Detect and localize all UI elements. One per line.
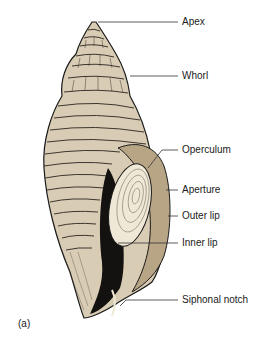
shell-illustration xyxy=(44,22,170,318)
label-whorl: Whorl xyxy=(182,70,208,82)
label-operculum: Operculum xyxy=(182,144,231,156)
label-outer-lip: Outer lip xyxy=(182,210,220,222)
label-siphonal-notch: Siphonal notch xyxy=(182,294,248,306)
label-aperture: Aperture xyxy=(182,184,220,196)
panel-label: (a) xyxy=(18,318,30,329)
label-apex: Apex xyxy=(182,16,205,28)
label-inner-lip: Inner lip xyxy=(182,237,218,249)
